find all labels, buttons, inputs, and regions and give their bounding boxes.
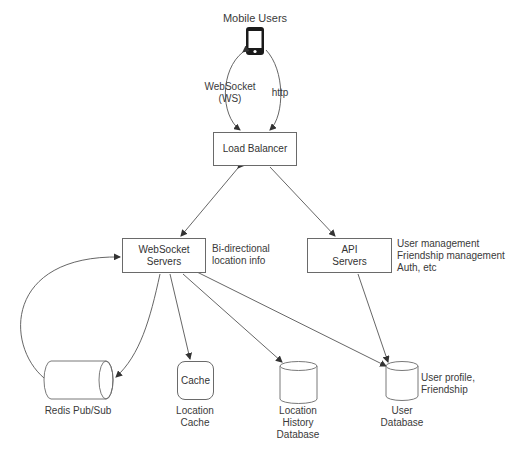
edge-ws-userdb: [197, 272, 386, 366]
ws-note-1: Bi-directional: [212, 243, 270, 255]
api-note-2: Friendship management: [397, 250, 505, 262]
userdb-label-1: User: [391, 405, 412, 417]
load-balancer-label: Load Balancer: [223, 143, 288, 155]
ws-label-line2: (WS): [219, 93, 242, 105]
cache-label-2: Cache: [181, 417, 210, 429]
lochist-label-3: Database: [277, 429, 320, 441]
api-servers-label-2: Servers: [332, 256, 366, 268]
edge-ws-lochist: [183, 274, 282, 362]
lochist-label-2: History: [282, 417, 313, 429]
load-balancer-box: Load Balancer: [213, 132, 297, 166]
api-servers-label-1: API: [341, 244, 357, 256]
ws-label-line1: WebSocket: [205, 81, 256, 93]
userdb-note-1: User profile,: [421, 372, 475, 384]
edge-ws-redis: [116, 274, 160, 377]
cache-inner-label: Cache: [181, 375, 210, 387]
api-servers-box: API Servers: [307, 238, 392, 273]
redis-cylinder: [44, 361, 113, 399]
websocket-servers-label-1: WebSocket: [139, 244, 190, 256]
api-note-3: Auth, etc: [397, 262, 436, 274]
user-db-cylinder: [386, 362, 418, 401]
location-history-cylinder: [280, 362, 317, 404]
edge-api-userdb: [358, 274, 388, 362]
smartphone-icon: [246, 27, 264, 55]
edge-ws-cache: [170, 274, 190, 359]
api-note-1: User management: [397, 238, 479, 250]
userdb-note-2: Friendship: [421, 384, 468, 396]
http-label: http: [272, 87, 289, 99]
websocket-servers-box: WebSocket Servers: [122, 238, 206, 273]
edge-lb-api: [270, 167, 335, 236]
cache-label-1: Location: [176, 405, 214, 417]
ws-note-2: location info: [212, 255, 265, 267]
edge-lb-ws: [181, 168, 238, 236]
mobile-users-label: Mobile Users: [223, 12, 287, 24]
edge-redis-ws: [21, 257, 120, 378]
cache-box: Cache: [177, 361, 214, 400]
lochist-label-1: Location: [279, 405, 317, 417]
websocket-servers-label-2: Servers: [147, 256, 181, 268]
userdb-label-2: Database: [381, 417, 424, 429]
redis-label: Redis Pub/Sub: [45, 405, 112, 417]
